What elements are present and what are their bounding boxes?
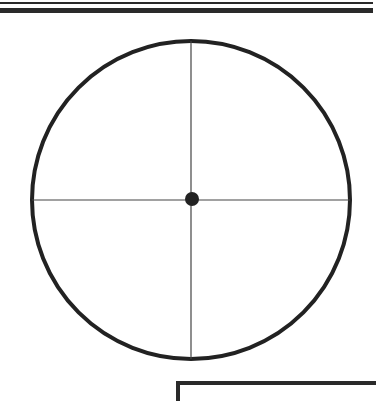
bottom-frame <box>176 381 376 401</box>
center-point <box>185 192 199 206</box>
